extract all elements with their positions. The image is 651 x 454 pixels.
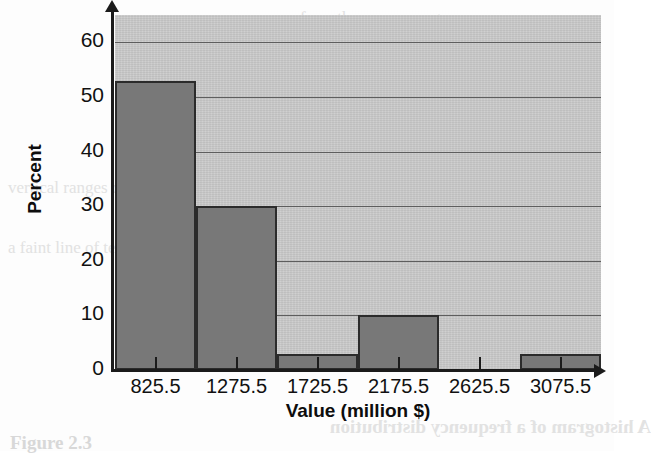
y-axis-arrowhead-icon: [105, 0, 119, 12]
x-tick-label: 825.5: [130, 375, 180, 398]
x-tick-label: 1275.5: [206, 375, 267, 398]
y-tick-label: 60: [4, 28, 104, 52]
x-tick-label: 2625.5: [449, 375, 510, 398]
x-axis-arrowhead-icon: [594, 364, 606, 378]
y-tick-label: 40: [4, 138, 104, 162]
x-axis-title: Value (million $): [115, 400, 601, 422]
y-axis-title: Percent: [24, 114, 46, 244]
y-tick-label: 0: [4, 356, 104, 380]
x-tick-mark: [236, 357, 238, 370]
plot-area: [115, 15, 601, 370]
x-tick-mark: [155, 357, 157, 370]
y-tick-label: 20: [4, 247, 104, 271]
y-axis-line: [111, 8, 114, 372]
x-tick-label: 2175.5: [368, 375, 429, 398]
x-tick-label: 3075.5: [530, 375, 591, 398]
gridline-60: [115, 42, 601, 43]
x-axis-line: [111, 369, 596, 372]
x-tick-mark: [479, 357, 481, 370]
histogram-bar: [115, 81, 196, 370]
x-tick-label: 1725.5: [287, 375, 348, 398]
y-tick-label: 10: [4, 301, 104, 325]
x-tick-mark: [398, 357, 400, 370]
histogram-bar: [196, 206, 277, 370]
y-tick-label: 50: [4, 83, 104, 107]
y-tick-label: 30: [4, 192, 104, 216]
x-tick-mark: [317, 357, 319, 370]
x-tick-mark: [560, 357, 562, 370]
